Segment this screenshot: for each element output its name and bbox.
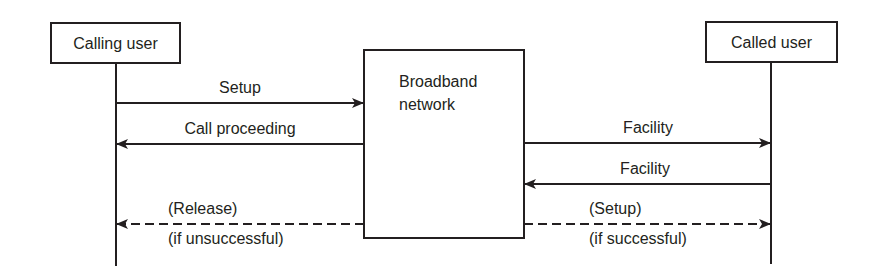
broadband-network-label-line2: network	[399, 96, 456, 113]
broadband-network-label-line1: Broadband	[399, 73, 477, 90]
message-setup: Setup	[117, 79, 363, 103]
message-setup-conditional: (Setup) (if successful)	[524, 200, 770, 247]
message-setup-conditional-condition: (if successful)	[589, 230, 687, 247]
message-release-condition: (if unsuccessful)	[168, 230, 284, 247]
participant-broadband-network: Broadband network	[364, 50, 524, 238]
message-facility-in-label: Facility	[620, 160, 670, 177]
message-facility-out: Facility	[524, 119, 770, 143]
message-call-proceeding-label: Call proceeding	[184, 120, 295, 137]
message-setup-conditional-label: (Setup)	[589, 200, 641, 217]
message-release: (Release) (if unsuccessful)	[117, 200, 364, 247]
message-facility-in: Facility	[525, 160, 771, 184]
calling-user-label: Calling user	[73, 35, 158, 52]
message-call-proceeding: Call proceeding	[117, 120, 364, 144]
message-facility-out-label: Facility	[623, 119, 673, 136]
message-release-label: (Release)	[168, 200, 237, 217]
sequence-diagram: Calling user Called user Broadband netwo…	[0, 0, 886, 274]
called-user-label: Called user	[731, 34, 813, 51]
message-setup-label: Setup	[219, 79, 261, 96]
